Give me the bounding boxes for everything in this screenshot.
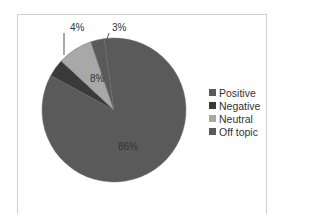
legend-item-neutral: Neutral bbox=[209, 112, 260, 125]
legend-label: Positive bbox=[219, 87, 256, 99]
data-label-neutral: 8% bbox=[90, 73, 104, 84]
legend-label: Neutral bbox=[219, 113, 253, 125]
legend-swatch-icon bbox=[209, 89, 216, 96]
chart-legend: Positive Negative Neutral Off topic bbox=[209, 86, 260, 138]
data-label-negative: 4% bbox=[70, 22, 84, 33]
legend-label: Negative bbox=[219, 100, 260, 112]
data-label-off-topic: 3% bbox=[112, 22, 126, 33]
legend-item-positive: Positive bbox=[209, 86, 260, 99]
legend-swatch-icon bbox=[209, 115, 216, 122]
data-label-positive: 86% bbox=[118, 141, 138, 152]
legend-swatch-icon bbox=[209, 102, 216, 109]
legend-swatch-icon bbox=[209, 128, 216, 135]
legend-item-off-topic: Off topic bbox=[209, 125, 260, 138]
legend-item-negative: Negative bbox=[209, 99, 260, 112]
legend-label: Off topic bbox=[219, 126, 258, 138]
